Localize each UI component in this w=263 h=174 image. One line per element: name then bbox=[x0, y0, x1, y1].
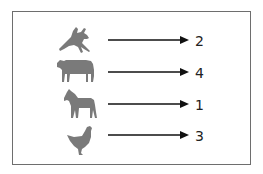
chicken-icon bbox=[66, 125, 96, 157]
value-cow: 4 bbox=[195, 66, 204, 80]
horse-icon bbox=[61, 88, 99, 122]
arrow-chicken bbox=[108, 130, 190, 140]
rabbit-icon bbox=[57, 25, 93, 55]
value-rabbit: 2 bbox=[195, 34, 204, 48]
arrow-cow bbox=[108, 67, 190, 77]
arrow-horse bbox=[108, 99, 190, 109]
arrow-rabbit bbox=[108, 35, 190, 45]
cow-icon bbox=[56, 58, 96, 84]
value-chicken: 3 bbox=[195, 129, 204, 143]
value-horse: 1 bbox=[195, 98, 204, 112]
